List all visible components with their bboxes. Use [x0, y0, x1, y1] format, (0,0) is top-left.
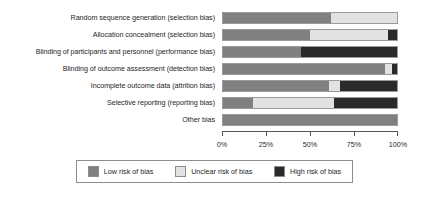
x-axis-tick-label: 25% [259, 140, 273, 149]
bar-segment-unclear-risk-of-bias [329, 81, 339, 91]
bar-row: Other bias [0, 111, 428, 128]
bar-segment-high-risk-of-bias [340, 81, 397, 91]
x-axis [222, 131, 398, 139]
x-axis-tick [354, 131, 355, 136]
chart-legend: Low risk of biasUnclear risk of biasHigh… [76, 160, 353, 183]
bar-segment-unclear-risk-of-bias [385, 64, 392, 74]
bar-row-label: Incomplete outcome data (attrition bias) [0, 81, 222, 90]
legend-swatch-icon [274, 166, 285, 177]
legend-item: High risk of bias [274, 166, 341, 177]
bar-row-label: Blinding of participants and personnel (… [0, 47, 222, 56]
bar-row: Allocation concealment (selection bias) [0, 26, 428, 43]
bar-segment-unclear-risk-of-bias [310, 30, 388, 40]
stacked-bar [222, 12, 398, 24]
stacked-bar [222, 46, 398, 58]
legend-item: Unclear risk of bias [175, 166, 252, 177]
risk-of-bias-chart: Random sequence generation (selection bi… [0, 0, 428, 197]
legend-item: Low risk of bias [88, 166, 154, 177]
bar-segment-high-risk-of-bias [388, 30, 397, 40]
legend-label: Unclear risk of bias [191, 167, 252, 176]
bar-row: Selective reporting (reporting bias) [0, 94, 428, 111]
x-axis-tick [310, 131, 311, 136]
bar-row-label: Blinding of outcome assessment (detectio… [0, 64, 222, 73]
bar-segment-high-risk-of-bias [301, 47, 397, 57]
stacked-bar [222, 114, 398, 126]
x-axis-tick-labels: 0%25%50%75%100% [222, 140, 398, 151]
stacked-bar [222, 80, 398, 92]
x-axis-tick [397, 131, 398, 136]
bar-row: Blinding of outcome assessment (detectio… [0, 60, 428, 77]
x-axis-tick-label: 0% [217, 140, 227, 149]
stacked-bar [222, 29, 398, 41]
bar-row: Incomplete outcome data (attrition bias) [0, 77, 428, 94]
bar-segment-unclear-risk-of-bias [331, 13, 397, 23]
x-axis-tick-label: 100% [389, 140, 407, 149]
bar-segment-high-risk-of-bias [392, 64, 397, 74]
x-axis-tick [222, 131, 223, 136]
bar-segment-low-risk-of-bias [223, 13, 331, 23]
bar-row: Blinding of participants and personnel (… [0, 43, 428, 60]
bar-segment-high-risk-of-bias [334, 98, 397, 108]
bar-segment-unclear-risk-of-bias [253, 98, 335, 108]
stacked-bar [222, 97, 398, 109]
stacked-bar [222, 63, 398, 75]
bar-row-label: Other bias [0, 115, 222, 124]
x-axis-tick [266, 131, 267, 136]
x-axis-tick-label: 75% [347, 140, 361, 149]
bar-row-label: Allocation concealment (selection bias) [0, 30, 222, 39]
bar-segment-low-risk-of-bias [223, 64, 385, 74]
bar-segment-low-risk-of-bias [223, 81, 329, 91]
bar-segment-low-risk-of-bias [223, 47, 301, 57]
x-axis-tick-label: 50% [303, 140, 317, 149]
bar-row-label: Random sequence generation (selection bi… [0, 13, 222, 22]
legend-swatch-icon [175, 166, 186, 177]
legend-label: High risk of bias [290, 167, 341, 176]
bar-rows: Random sequence generation (selection bi… [0, 9, 428, 128]
bar-segment-low-risk-of-bias [223, 30, 310, 40]
bar-segment-low-risk-of-bias [223, 98, 253, 108]
bar-segment-low-risk-of-bias [223, 115, 397, 125]
bar-row-label: Selective reporting (reporting bias) [0, 98, 222, 107]
bar-row: Random sequence generation (selection bi… [0, 9, 428, 26]
legend-swatch-icon [88, 166, 99, 177]
legend-label: Low risk of bias [104, 167, 154, 176]
